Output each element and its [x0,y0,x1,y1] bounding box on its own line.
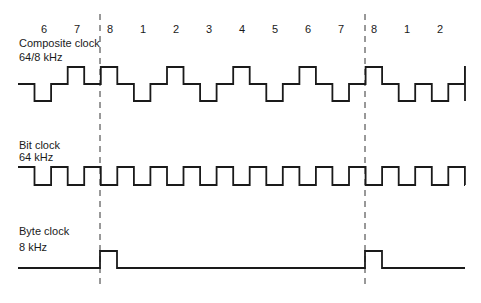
bit-number-label: 4 [236,23,248,35]
bit-number-label: 2 [170,23,182,35]
bit-number-label: 7 [335,23,347,35]
bit-number-label: 8 [368,23,380,35]
bit-clock-label: Bit clock [19,139,60,151]
frame-boundary-markers [100,14,365,286]
bit-number-label: 1 [137,23,149,35]
bit-number-label: 5 [269,23,281,35]
bit-clock-waveform [18,167,465,185]
composite-clock-label: Composite clock [19,37,100,49]
bit-number-label: 6 [38,23,50,35]
byte-clock-waveform [18,251,465,268]
composite-clock-waveform [18,67,465,101]
bit-number-label: 8 [104,23,116,35]
bit-number-label: 3 [203,23,215,35]
bit-clock-rate: 64 kHz [19,151,53,163]
composite-clock-rate: 64/8 kHz [19,51,62,63]
clock-timing-diagram: 6781234567812 Composite clock 64/8 kHz B… [0,0,481,303]
byte-clock-label: Byte clock [19,225,69,237]
bit-number-label: 2 [434,23,446,35]
bit-number-label: 1 [401,23,413,35]
byte-clock-rate: 8 kHz [19,241,47,253]
bit-number-label: 6 [302,23,314,35]
bit-number-label: 7 [71,23,83,35]
